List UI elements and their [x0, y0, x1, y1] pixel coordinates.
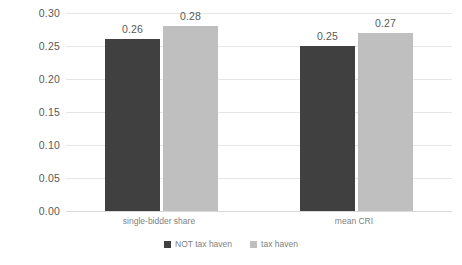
gridline — [66, 13, 452, 14]
bar-chart: 0.30 0.25 0.20 0.15 0.10 0.05 0.00 0.26 … — [0, 0, 462, 265]
y-tick-label: 0.15 — [0, 106, 60, 118]
y-tick-label: 0.00 — [0, 205, 60, 217]
bar-not-tax-haven-mean-cri[interactable] — [300, 46, 355, 211]
legend-item-tax-haven[interactable]: tax haven — [250, 239, 298, 249]
legend-item-not-tax-haven[interactable]: NOT tax haven — [164, 239, 232, 249]
bar-value-label: 0.27 — [358, 17, 413, 29]
plot-area: 0.26 0.28 0.25 0.27 — [66, 13, 452, 211]
y-tick-label: 0.05 — [0, 172, 60, 184]
bar-value-label: 0.28 — [163, 10, 218, 22]
bar-value-label: 0.26 — [105, 23, 160, 35]
bar-tax-haven-mean-cri[interactable] — [358, 33, 413, 211]
axis-baseline — [66, 211, 452, 212]
legend-swatch-icon — [250, 241, 257, 248]
category-label-mean-cri: mean CRI — [261, 216, 447, 226]
y-tick-label: 0.10 — [0, 139, 60, 151]
y-tick-label: 0.30 — [0, 7, 60, 19]
bar-not-tax-haven-single-bidder-share[interactable] — [105, 39, 160, 211]
legend-label: tax haven — [261, 239, 298, 249]
y-axis: 0.30 0.25 0.20 0.15 0.10 0.05 0.00 — [0, 13, 60, 211]
legend-swatch-icon — [164, 241, 171, 248]
legend-label: NOT tax haven — [175, 239, 232, 249]
y-tick-label: 0.20 — [0, 73, 60, 85]
bar-tax-haven-single-bidder-share[interactable] — [163, 26, 218, 211]
y-tick-label: 0.25 — [0, 40, 60, 52]
category-label-single-bidder-share: single-bidder share — [66, 216, 252, 226]
bar-value-label: 0.25 — [300, 30, 355, 42]
legend: NOT tax haven tax haven — [0, 239, 462, 249]
